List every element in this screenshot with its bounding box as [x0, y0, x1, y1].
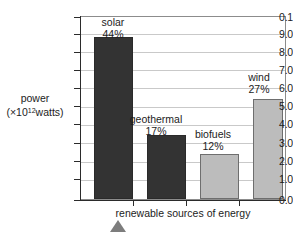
- bar-chart-figure: 0.1 9.0 8.0 7.0 6.0 5.0 4.0 3.0 2.0 1.0 …: [0, 0, 293, 235]
- bar-percent-biofuels: 12%: [176, 140, 250, 152]
- y-tick-mark: [74, 52, 80, 53]
- x-tick-mark: [186, 201, 187, 206]
- bar-label-biofuels: biofuels: [176, 128, 250, 140]
- y-tick-mark: [74, 179, 80, 180]
- y-axis-title-prefix: (×10: [6, 106, 27, 118]
- y-axis-title-exponent: 12: [28, 107, 36, 114]
- bar-percent-solar: 44%: [78, 28, 148, 40]
- y-tick-mark: [74, 106, 80, 107]
- y-tick-mark: [74, 143, 80, 144]
- y-tick-mark: [74, 70, 80, 71]
- y-tick-mark: [74, 88, 80, 89]
- bar-label-wind: wind: [232, 71, 286, 83]
- pointer-triangle-icon: [110, 220, 126, 232]
- bar-annotation-biofuels: biofuels 12%: [176, 128, 250, 152]
- x-axis-title: renewable sources of energy: [80, 207, 286, 219]
- y-axis-title-suffix: watts): [36, 106, 64, 118]
- y-tick-label-8: 8.0: [221, 47, 293, 57]
- y-tick-label-2: 2.0: [221, 156, 293, 166]
- bar-label-solar: solar: [78, 16, 148, 28]
- y-tick-label-10: 0.1: [221, 12, 293, 22]
- y-tick-label-5: 5.0: [221, 101, 293, 111]
- bar-percent-wind: 27%: [232, 83, 286, 95]
- bar-annotation-wind: wind 27%: [232, 71, 286, 95]
- bar-annotation-solar: solar 44%: [78, 16, 148, 40]
- y-axis-title-line1: power: [21, 92, 50, 104]
- y-tick-mark: [74, 124, 80, 125]
- y-tick-mark: [74, 161, 80, 162]
- y-tick-label-1: 1.0: [221, 174, 293, 184]
- y-tick-label-9: 9.0: [221, 29, 293, 39]
- x-tick-mark: [239, 201, 240, 206]
- bar-label-geothermal: geothermal: [113, 113, 199, 125]
- y-axis-line: [80, 16, 81, 201]
- x-tick-mark: [133, 201, 134, 206]
- y-axis-title: power (×1012watts): [0, 92, 70, 118]
- x-axis-line: [80, 200, 286, 201]
